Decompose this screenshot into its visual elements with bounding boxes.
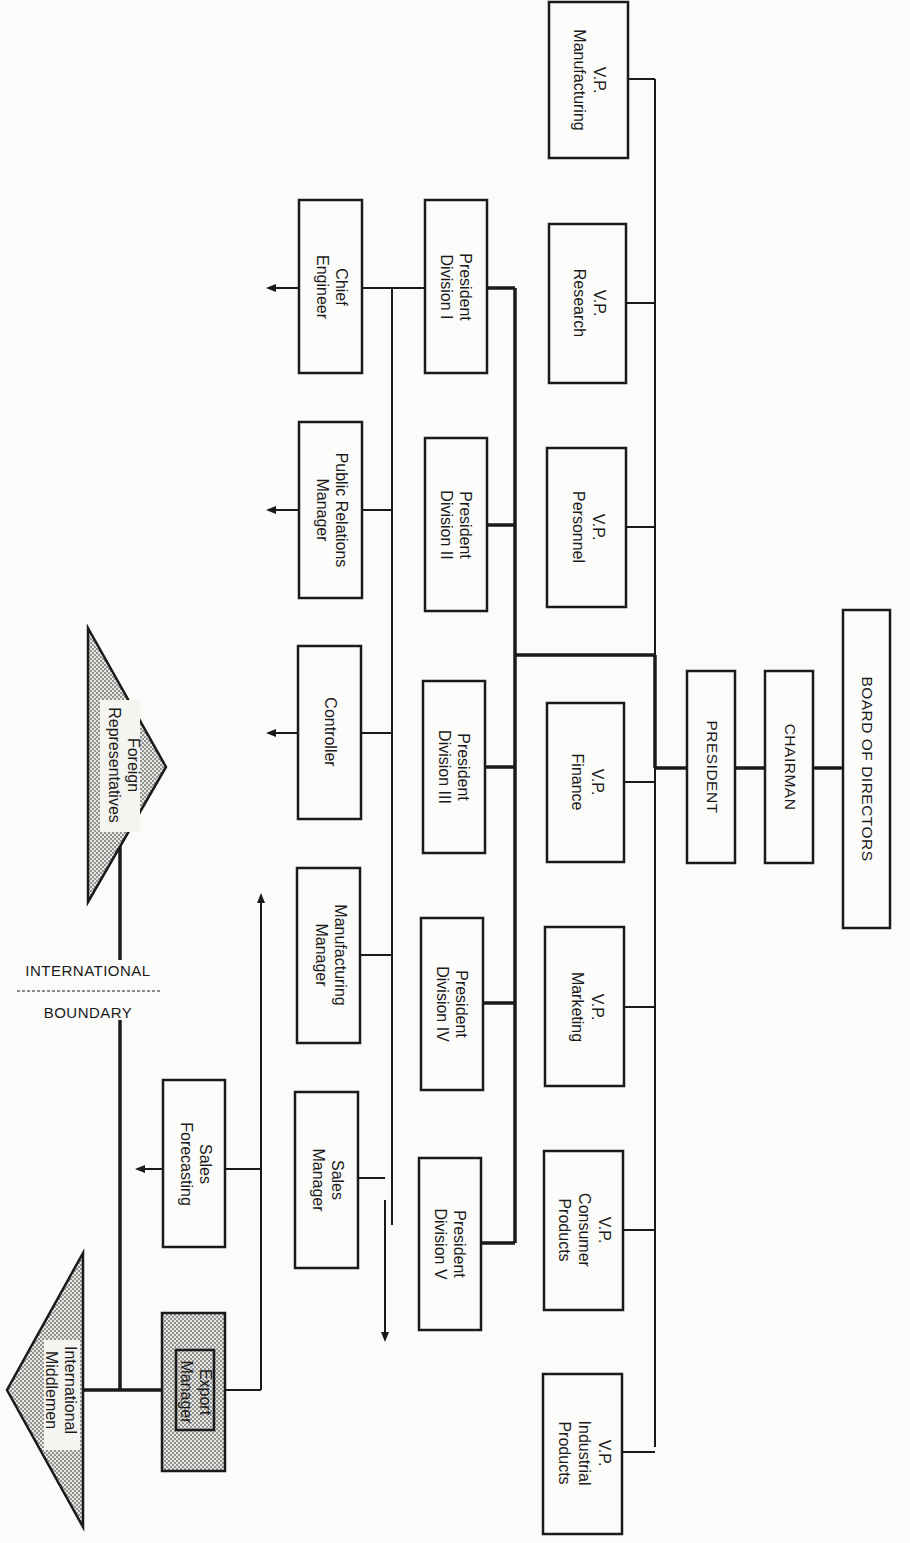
svg-text:Personnel: Personnel [570, 491, 587, 563]
svg-text:Division I: Division I [438, 255, 455, 320]
svg-text:Division III: Division III [436, 730, 453, 804]
public-relations-manager-box: Public Relations Manager [299, 422, 362, 598]
svg-text:Division II: Division II [438, 490, 455, 559]
sales-forecasting-box: Sales Forecasting [163, 1080, 225, 1247]
svg-text:V.P.: V.P. [591, 290, 608, 317]
svg-text:V.P.: V.P. [589, 994, 606, 1021]
svg-text:BOARD OF DIRECTORS: BOARD OF DIRECTORS [859, 676, 876, 861]
svg-text:Engineer: Engineer [314, 255, 331, 320]
foreign-representatives-node: Foreign Representatives [88, 628, 166, 902]
svg-text:V.P.: V.P. [596, 1440, 613, 1467]
svg-text:Manager: Manager [310, 1148, 327, 1212]
svg-text:Consumer: Consumer [576, 1193, 593, 1267]
vp-finance-box: V.P. Finance [547, 703, 624, 862]
svg-text:President: President [457, 491, 474, 559]
svg-text:Products: Products [556, 1198, 573, 1261]
president-division-1-box: President Division I [425, 200, 487, 373]
svg-text:Forecasting: Forecasting [178, 1122, 195, 1206]
svg-text:President: President [455, 733, 472, 801]
svg-text:Middlemen: Middlemen [43, 1351, 60, 1429]
board-of-directors-box: BOARD OF DIRECTORS [843, 610, 890, 928]
svg-text:Sales: Sales [329, 1160, 346, 1200]
international-middlemen-node: International Middlemen [7, 1253, 83, 1527]
svg-text:V.P.: V.P. [589, 769, 606, 796]
org-chart: BOARD OF DIRECTORS CHAIRMAN PRESIDENT V.… [0, 0, 910, 1543]
international-boundary-label: INTERNATIONAL BOUNDARY [17, 962, 161, 1021]
svg-text:Products: Products [556, 1421, 573, 1484]
svg-text:Industrial: Industrial [576, 1421, 593, 1486]
controller-box: Controller [298, 646, 361, 819]
svg-text:Manufacturing: Manufacturing [571, 29, 588, 130]
svg-text:Chief: Chief [333, 268, 350, 306]
svg-text:Representatives: Representatives [106, 707, 123, 823]
vp-marketing-box: V.P. Marketing [545, 927, 624, 1086]
svg-text:Export: Export [197, 1369, 214, 1416]
svg-text:Manager: Manager [314, 478, 331, 542]
svg-text:Division V: Division V [432, 1208, 449, 1279]
svg-text:V.P.: V.P. [591, 67, 608, 94]
svg-text:Sales: Sales [197, 1144, 214, 1184]
vp-research-box: V.P. Research [549, 224, 626, 383]
president-division-5-box: President Division V [419, 1158, 481, 1330]
svg-text:International: International [62, 1346, 79, 1434]
svg-text:President: President [453, 970, 470, 1038]
chief-engineer-box: Chief Engineer [299, 200, 362, 373]
manufacturing-manager-box: Manufacturing Manager [297, 868, 360, 1043]
svg-text:Marketing: Marketing [569, 972, 586, 1042]
vp-consumer-products-box: V.P. Consumer Products [544, 1151, 623, 1310]
svg-text:Controller: Controller [322, 697, 339, 767]
svg-text:Foreign: Foreign [125, 738, 142, 792]
svg-text:INTERNATIONAL: INTERNATIONAL [25, 962, 150, 979]
sales-manager-box: Sales Manager [295, 1092, 358, 1268]
svg-text:BOUNDARY: BOUNDARY [44, 1004, 133, 1021]
svg-text:President: President [451, 1210, 468, 1278]
svg-text:Manufacturing: Manufacturing [332, 904, 349, 1005]
vp-personnel-box: V.P. Personnel [547, 448, 626, 607]
svg-text:Division IV: Division IV [434, 966, 451, 1042]
svg-text:V.P.: V.P. [590, 514, 607, 541]
svg-text:Finance: Finance [569, 754, 586, 811]
svg-text:Manager: Manager [313, 923, 330, 987]
svg-text:President: President [457, 253, 474, 321]
svg-text:Research: Research [571, 269, 588, 337]
svg-text:PRESIDENT: PRESIDENT [704, 720, 721, 813]
vp-manufacturing-box: V.P. Manufacturing [549, 2, 628, 158]
svg-text:V.P.: V.P. [596, 1217, 613, 1244]
vp-industrial-products-box: V.P. Industrial Products [543, 1374, 622, 1534]
svg-text:CHAIRMAN: CHAIRMAN [782, 724, 799, 811]
chairman-box: CHAIRMAN [765, 671, 813, 863]
export-manager-box: Export Manager [162, 1313, 225, 1471]
president-division-3-box: President Division III [423, 681, 485, 853]
svg-text:Manager: Manager [178, 1360, 195, 1424]
president-division-4-box: President Division IV [421, 918, 483, 1090]
president-division-2-box: President Division II [425, 438, 487, 611]
svg-text:Public Relations: Public Relations [333, 453, 350, 568]
president-box: PRESIDENT [687, 671, 735, 863]
